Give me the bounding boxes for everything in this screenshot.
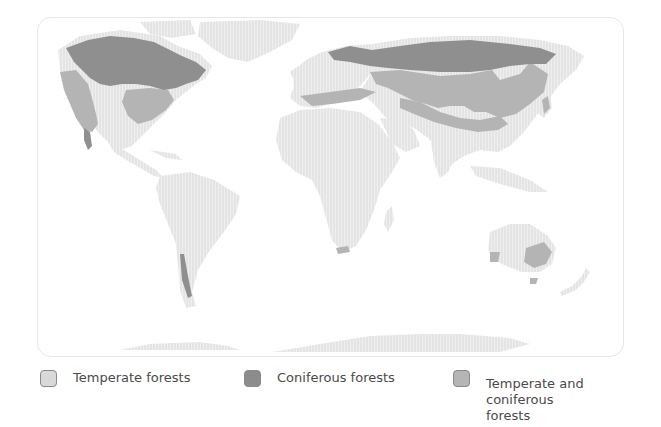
legend-label-line1: Temperate and: [486, 376, 584, 391]
swatch-medium-icon: [453, 370, 470, 387]
legend-item-temperate-forests: Temperate forests: [40, 370, 190, 387]
legend-item-temperate-and-coniferous-forests: Temperate and coniferous forests: [453, 370, 596, 424]
legend-label-line2: coniferous forests: [486, 392, 554, 423]
map-legend: Temperate forests Coniferous forests Tem…: [0, 370, 661, 427]
legend-label: Temperate and coniferous forests: [486, 370, 596, 424]
legend-label: Temperate forests: [73, 370, 190, 386]
legend-item-coniferous-forests: Coniferous forests: [244, 370, 395, 387]
swatch-dark-icon: [244, 370, 261, 387]
world-map: [0, 0, 661, 427]
swatch-light-icon: [40, 370, 57, 387]
legend-label: Coniferous forests: [277, 370, 395, 386]
